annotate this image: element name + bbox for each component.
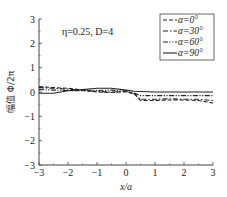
x-tick-label: 1 <box>153 167 158 178</box>
x-tick-label: 0 <box>124 167 129 178</box>
series-line <box>39 88 213 101</box>
x-axis-label: x/a <box>119 181 132 192</box>
y-axis-label: 幅值 Φ/2π <box>5 70 16 113</box>
x-tick-label: −2 <box>63 167 74 178</box>
y-tick-label: −1 <box>24 111 35 122</box>
legend-label: α=60° <box>178 37 203 47</box>
y-tick-label: 3 <box>30 14 35 25</box>
legend-label: α=30° <box>178 26 203 36</box>
legend-label: α=0° <box>178 15 198 25</box>
series-line <box>39 87 213 103</box>
series-lines <box>39 87 213 103</box>
x-tick-label: 2 <box>182 167 187 178</box>
chart-annotation: η=0.25, D=4 <box>62 26 113 37</box>
chart-canvas: −3−2−10123−3−2−10123 α=0°α=30°α=60°α=90°… <box>0 0 227 197</box>
y-tick-label: 1 <box>30 62 35 73</box>
x-tick-label: −3 <box>34 167 45 178</box>
x-tick-label: 3 <box>211 167 216 178</box>
y-tick-label: −3 <box>24 160 35 171</box>
x-tick-label: −1 <box>92 167 103 178</box>
legend-label: α=90° <box>178 48 203 58</box>
y-tick-label: −2 <box>24 135 35 146</box>
y-tick-label: 2 <box>30 38 35 49</box>
y-tick-label: 0 <box>30 87 35 98</box>
legend: α=0°α=30°α=60°α=90° <box>160 14 214 60</box>
